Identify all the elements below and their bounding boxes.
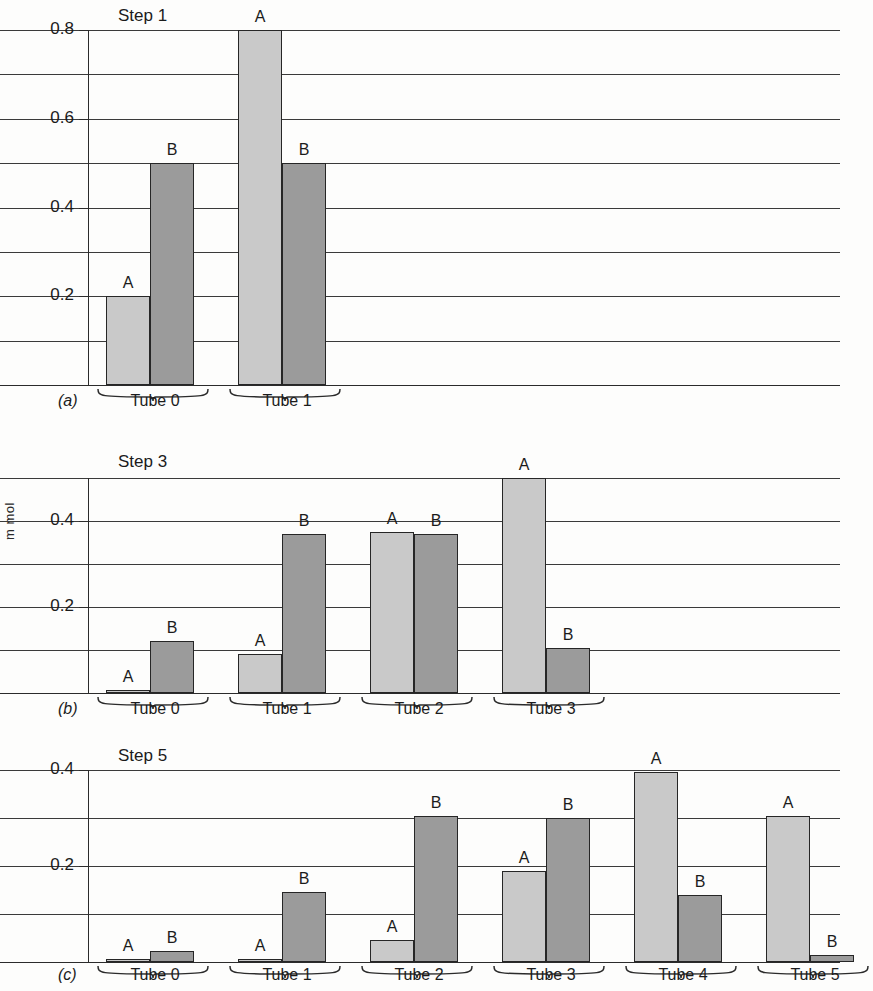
tube-label: Tube 0 [84,392,226,410]
tube-label: Tube 3 [480,966,622,984]
gridline [0,119,840,120]
axis-tick-label: 0.2 [10,285,74,305]
gridline [0,770,840,771]
tube-label: Tube 3 [480,700,622,718]
axis-vertical [88,770,89,962]
bar-label: B [272,870,336,888]
bar-label: B [140,141,204,159]
bar-label: B [668,873,732,891]
bar-b [282,534,326,693]
bar-a [502,871,546,962]
bar-b [810,955,854,962]
bar-label: A [228,8,292,26]
bar-label: B [272,141,336,159]
tube-label: Tube 0 [84,700,226,718]
panel-letter: (b) [58,700,78,718]
tube-label: Tube 2 [348,700,490,718]
axis-tick-label: 0.8 [10,19,74,39]
gridline [0,252,840,253]
panel-title: Step 3 [118,452,167,472]
axis-tick [79,770,88,771]
bar-b [678,895,722,962]
panel-letter: (a) [58,392,78,410]
bar-label: B [404,794,468,812]
axis-tick [79,521,88,522]
bar-b [546,818,590,962]
axis-tick-label: 0.4 [10,759,74,779]
axis-tick-label: 0.4 [10,510,74,530]
tube-label: Tube 5 [744,966,873,984]
bar-a [238,959,282,962]
axis-tick [79,866,88,867]
axis-tick [79,119,88,120]
bar-b [414,534,458,693]
bar-a [502,478,546,693]
tube-label: Tube 1 [216,966,358,984]
bar-b [150,951,194,962]
axis-tick-label: 0.6 [10,108,74,128]
bar-label: B [272,512,336,530]
axis-tick-label: 0.4 [10,197,74,217]
gridline [0,478,840,479]
tube-label: Tube 1 [216,392,358,410]
bar-a [106,296,150,385]
bar-label: A [492,456,556,474]
bar-label: B [404,512,468,530]
bar-a [238,30,282,385]
gridline [0,30,840,31]
axis-baseline [0,385,840,386]
axis-vertical [88,30,89,385]
bar-label: B [800,933,864,951]
bar-b [150,163,194,385]
bar-label: A [756,794,820,812]
bar-a [370,532,414,693]
gridline [0,208,840,209]
bar-b [414,816,458,962]
bar-a [238,654,282,693]
bar-label: B [536,796,600,814]
axis-baseline [0,962,840,963]
axis-tick [79,208,88,209]
axis-tick [79,607,88,608]
tube-label: Tube 1 [216,700,358,718]
bar-b [282,163,326,385]
axis-tick-label: 0.2 [10,855,74,875]
axis-tick [79,30,88,31]
panel-letter: (c) [58,966,77,984]
bar-a [370,940,414,962]
bar-b [150,641,194,693]
bar-label: A [624,750,688,768]
axis-baseline [0,693,840,694]
bar-label: B [140,929,204,947]
axis-vertical [88,478,89,693]
gridline [0,74,840,75]
tube-label: Tube 2 [348,966,490,984]
gridline [0,163,840,164]
panel-title: Step 1 [118,6,167,26]
tube-label: Tube 0 [84,966,226,984]
bar-a [106,959,150,962]
tube-label: Tube 4 [612,966,754,984]
bar-a [634,772,678,962]
panel-title: Step 5 [118,746,167,766]
bar-label: B [536,626,600,644]
bar-a [106,690,150,693]
bar-b [546,648,590,693]
axis-tick [79,296,88,297]
bar-b [282,892,326,962]
axis-tick-label: 0.2 [10,596,74,616]
bar-label: B [140,619,204,637]
